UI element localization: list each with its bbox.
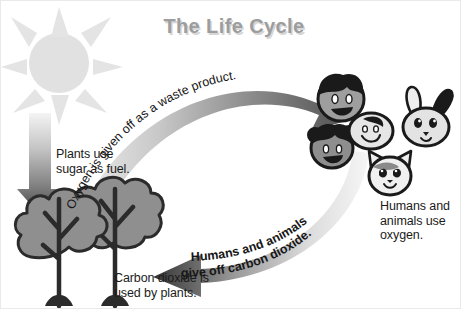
cat-face — [369, 151, 411, 195]
page-title: The Life Cycle — [129, 15, 339, 38]
boy-face — [318, 74, 364, 121]
rabbit-face — [403, 87, 452, 146]
label-plants-use-sugar: Plants use sugar as fuel. — [56, 147, 130, 176]
tree-left — [15, 189, 107, 306]
life-cycle-diagram: Oxygen is given off as a waste product. … — [0, 0, 461, 309]
sun-icon — [1, 7, 123, 125]
label-humans-animals-oxygen: Humans and animals use oxygen. — [380, 199, 450, 243]
label-carbon-dioxide-used: Carbon dioxide is used by plants. — [114, 271, 209, 300]
baby-face — [349, 113, 393, 149]
